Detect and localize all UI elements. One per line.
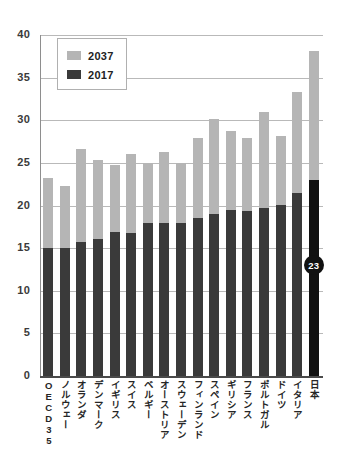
bar-column — [126, 35, 136, 376]
x-axis-label-1: ノルウェー — [57, 380, 70, 430]
bar-column — [292, 35, 302, 376]
bar-column — [209, 35, 219, 376]
bar-segment-2017 — [176, 223, 186, 376]
x-axis-label-7: オーストリア — [156, 380, 169, 440]
bar-segment-2017 — [159, 223, 169, 376]
bar-chart: 0510152025303540 OECD35ノルウェーオランダデンマークイギリ… — [0, 0, 341, 462]
y-tick-label-20: 20 — [4, 199, 30, 211]
bar-column — [242, 35, 252, 376]
bar-segment-2017 — [242, 211, 252, 376]
x-axis-label-6: ベルギー — [140, 380, 153, 420]
bar-segment-2017 — [259, 208, 269, 376]
x-axis-label-12: フランス — [239, 380, 252, 420]
x-axis-label-13: ポルトガル — [256, 380, 269, 430]
legend-label-2017: 2017 — [88, 69, 114, 81]
bar-segment-2017 — [226, 210, 236, 376]
legend-label-2037: 2037 — [88, 50, 114, 62]
x-axis-label-14: ドイツ — [273, 380, 286, 410]
bar-column — [176, 35, 186, 376]
bar-segment-2017 — [43, 248, 53, 376]
x-axis-label-15: イタリア — [289, 380, 302, 420]
bar-segment-2017 — [60, 248, 70, 376]
y-tick-label-10: 10 — [4, 284, 30, 296]
x-axis-category-labels: OECD35ノルウェーオランダデンマークイギリススイスベルギーオーストリアスウェ… — [40, 380, 323, 462]
bar-segment-2017 — [126, 233, 136, 376]
y-tick-label-15: 15 — [4, 241, 30, 253]
bar-segment-2017 — [276, 205, 286, 376]
y-tick-label-0: 0 — [4, 369, 30, 381]
y-tick-label-35: 35 — [4, 71, 30, 83]
bar-column — [159, 35, 169, 376]
bar-segment-2017 — [193, 218, 203, 376]
legend-swatch-2017 — [67, 70, 81, 79]
x-axis-label-9: フィンランド — [190, 380, 203, 440]
bar-segment-2017 — [76, 242, 86, 376]
y-tick-label-25: 25 — [4, 156, 30, 168]
y-tick-label-30: 30 — [4, 113, 30, 125]
bar-segment-2017 — [309, 180, 319, 376]
x-axis-label-11: ギリシア — [223, 380, 236, 420]
bar-segment-2017 — [209, 214, 219, 376]
x-axis-label-8: スウェーデン — [173, 380, 186, 440]
chart-legend: 2037 2017 — [57, 38, 127, 90]
x-axis-label-5: スイス — [123, 380, 136, 410]
bar-column — [43, 35, 53, 376]
bar-segment-2017 — [143, 223, 153, 376]
y-tick-label-40: 40 — [4, 28, 30, 40]
x-axis-line — [40, 376, 323, 378]
bar-column — [259, 35, 269, 376]
bar-segment-2017 — [93, 239, 103, 376]
bar-segment-2017 — [110, 232, 120, 376]
legend-item-2017: 2017 — [67, 65, 126, 84]
bar-column — [276, 35, 286, 376]
x-axis-label-4: イギリス — [107, 380, 120, 420]
x-axis-label-0: OECD35 — [40, 380, 53, 446]
legend-item-2037: 2037 — [67, 46, 126, 65]
x-axis-label-10: スペイン — [206, 380, 219, 420]
x-axis-label-2: オランダ — [73, 380, 86, 420]
japan-value-badge: 23 — [304, 255, 324, 275]
bar-column — [143, 35, 153, 376]
legend-swatch-2037 — [67, 51, 81, 60]
bar-segment-2017 — [292, 193, 302, 376]
bar-column — [193, 35, 203, 376]
x-axis-label-3: デンマーク — [90, 380, 103, 430]
y-tick-label-5: 5 — [4, 326, 30, 338]
bar-column — [309, 35, 319, 376]
bar-column — [226, 35, 236, 376]
x-axis-label-16: 日本 — [306, 380, 319, 400]
